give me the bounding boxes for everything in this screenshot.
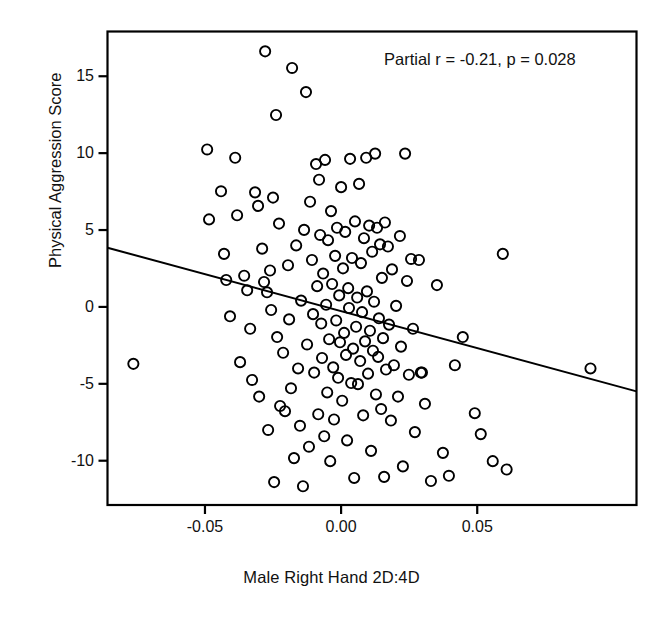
y-tick-label: -10 xyxy=(58,452,94,470)
y-tick-label: -5 xyxy=(58,375,94,393)
y-tick-label: 5 xyxy=(58,221,94,239)
scatter-plot-figure: Physical Aggression Score Male Right Han… xyxy=(0,0,663,621)
correlation-annotation: Partial r = -0.21, p = 0.028 xyxy=(384,50,576,69)
x-tick-label: 0.00 xyxy=(326,518,357,536)
x-tick-label: 0.05 xyxy=(462,518,493,536)
y-tick-label: 10 xyxy=(58,144,94,162)
x-axis-label: Male Right Hand 2D:4D xyxy=(0,568,663,587)
y-tick-label: 15 xyxy=(58,67,94,85)
y-tick-label: 0 xyxy=(58,298,94,316)
x-tick-label: -0.05 xyxy=(187,518,223,536)
